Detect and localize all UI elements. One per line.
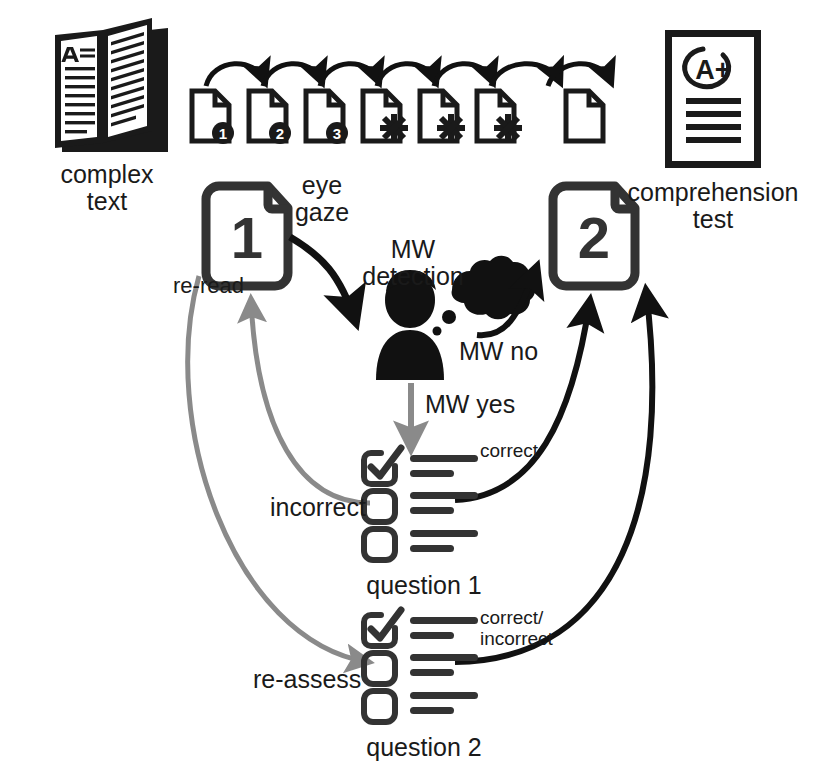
sequence-page-1: 1 <box>192 91 234 144</box>
open-book-icon <box>55 18 168 152</box>
svg-text:2: 2 <box>276 125 284 142</box>
page-2-node[interactable]: 2 <box>553 186 635 286</box>
q1-correct-label: correct <box>480 441 538 462</box>
sequence-page-3: 3 <box>306 91 348 144</box>
sequence-page-7 <box>566 91 603 141</box>
svg-text:2: 2 <box>578 205 610 270</box>
mw-yes-label: MW yes <box>425 391 515 418</box>
re-read-label: re-read <box>173 274 244 298</box>
eye-gaze-label: eye gaze <box>295 172 349 226</box>
diagram-canvas: A+ 1 2 3 <box>0 0 821 777</box>
svg-text:3: 3 <box>333 125 341 142</box>
diagram-vector-layer: A+ 1 2 3 <box>0 0 821 777</box>
re-assess-label: re-assess <box>253 666 361 693</box>
arrow-incorrect-reread <box>251 300 370 503</box>
sequence-page-2: 2 <box>249 91 291 144</box>
comprehension-test-caption-line1: comprehension <box>628 179 799 206</box>
question-1-checklist[interactable] <box>364 448 478 560</box>
q2-outcome-label: correct/ incorrect <box>480 608 553 649</box>
mw-detection-label: MW detection <box>362 236 463 290</box>
question-1-caption: question 1 <box>366 572 481 599</box>
sequence-page-4 <box>363 91 408 142</box>
mw-no-label: MW no <box>459 338 538 365</box>
complex-text-caption-line1: complex <box>60 161 153 188</box>
sequence-page-6 <box>477 91 522 142</box>
saccade-arrows <box>206 64 611 86</box>
svg-text:1: 1 <box>219 125 227 142</box>
question-2-caption: question 2 <box>366 734 481 761</box>
page-1-node[interactable]: 1 <box>206 186 288 286</box>
svg-text:1: 1 <box>231 205 263 270</box>
arrow-eye-gaze <box>290 237 356 323</box>
complex-text-caption-line2: text <box>87 188 127 215</box>
svg-text:A+: A+ <box>695 55 730 85</box>
comprehension-test-caption-line2: test <box>693 206 733 233</box>
question-2-checklist[interactable] <box>364 610 478 722</box>
sequence-page-5 <box>420 91 465 142</box>
graded-test-sheet-icon: A+ <box>665 30 761 168</box>
arrow-re-assess <box>188 276 368 662</box>
incorrect-label: incorrect <box>270 494 366 521</box>
